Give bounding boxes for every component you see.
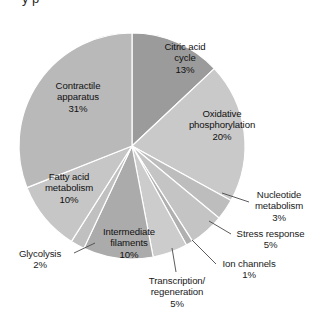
pie-slice-label: Citric acidcycle13% xyxy=(152,41,218,75)
slice-label-text: Nucleotide xyxy=(245,189,313,200)
pie-slice-label: Oxidativephosphorylation20% xyxy=(178,108,266,142)
pie-slice-label: Fatty acidmetabolism10% xyxy=(32,171,106,205)
pie-slice-label: Ion channels1% xyxy=(213,258,285,281)
pie-slice-label: Nucleotidemetabolism3% xyxy=(245,189,313,223)
slice-label-text: metabolism xyxy=(32,182,106,193)
slice-value-text: 2% xyxy=(8,259,72,270)
slice-value-text: 5% xyxy=(140,298,214,309)
pie-slice-label: Contractileapparatus31% xyxy=(38,80,118,114)
slice-label-text: Oxidative xyxy=(178,108,266,119)
slice-label-text: Ion channels xyxy=(213,258,285,269)
pie-slice-label: Stress response5% xyxy=(228,228,313,251)
slice-label-text: cycle xyxy=(152,52,218,63)
slice-label-text: Transcription/ xyxy=(140,275,214,286)
slice-label-text: Contractile xyxy=(38,80,118,91)
slice-label-text: Intermediate xyxy=(92,226,166,237)
slice-value-text: 10% xyxy=(92,249,166,260)
slice-value-text: 3% xyxy=(245,212,313,223)
slice-label-text: filaments xyxy=(92,237,166,248)
slice-label-text: Stress response xyxy=(228,228,313,239)
slice-value-text: 31% xyxy=(38,103,118,114)
slice-label-text: Glycolysis xyxy=(8,248,72,259)
slice-label-text: Fatty acid xyxy=(32,171,106,182)
label-leader-line xyxy=(172,248,176,272)
pie-chart: y p Citric acidcycle13%Oxidativephosphor… xyxy=(0,0,314,320)
pie-slice-label: Intermediatefilaments10% xyxy=(92,226,166,260)
slice-value-text: 13% xyxy=(152,64,218,75)
slice-label-text: metabolism xyxy=(245,200,313,211)
slice-label-text: apparatus xyxy=(38,91,118,102)
slice-value-text: 1% xyxy=(213,269,285,280)
slice-value-text: 5% xyxy=(228,239,313,250)
slice-label-text: regeneration xyxy=(140,286,214,297)
pie-slice-label: Glycolysis2% xyxy=(8,248,72,271)
slice-value-text: 20% xyxy=(178,131,266,142)
slice-label-text: phosphorylation xyxy=(178,119,266,130)
pie-slice-label: Transcription/regeneration5% xyxy=(140,275,214,309)
slice-label-text: Citric acid xyxy=(152,41,218,52)
slice-value-text: 10% xyxy=(32,194,106,205)
